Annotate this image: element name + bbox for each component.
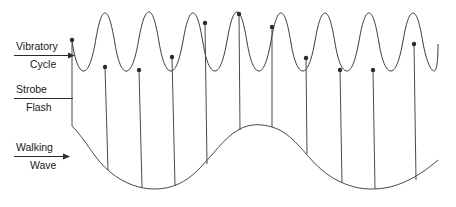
strobe-line-3 xyxy=(139,70,142,188)
strobe-line-4 xyxy=(172,57,175,186)
sample-dot-5 xyxy=(203,21,207,25)
sample-dot-9 xyxy=(338,68,342,72)
label-vibratory-line2: Cycle xyxy=(30,58,56,70)
label-strobe-line1: Strobe xyxy=(16,83,47,95)
sample-dot-2 xyxy=(103,65,107,69)
sample-dot-7 xyxy=(270,25,274,29)
strobe-line-6 xyxy=(239,14,240,130)
strobe-line-11 xyxy=(414,44,416,180)
sample-dot-6 xyxy=(237,12,241,16)
diagram-root: Vibratory Cycle Strobe Flash Walking Wav… xyxy=(0,0,456,207)
sample-dot-11 xyxy=(412,42,416,46)
label-vibratory-line1: Vibratory xyxy=(16,40,59,52)
label-walking-line1: Walking xyxy=(16,141,53,153)
strobe-walking-wave-figure: Vibratory Cycle Strobe Flash Walking Wav… xyxy=(0,0,456,207)
sample-dot-4 xyxy=(170,55,174,59)
strobe-line-10 xyxy=(373,70,375,189)
label-strobe-flash: Strobe Flash xyxy=(14,83,73,113)
sample-dot-8 xyxy=(304,56,308,60)
label-vibratory-cycle: Vibratory Cycle xyxy=(14,40,75,70)
strobe-sample-dots xyxy=(70,12,416,72)
strobe-line-9 xyxy=(340,70,342,183)
sample-dot-1 xyxy=(70,38,74,42)
label-strobe-line2: Flash xyxy=(26,101,52,113)
walking-wave-curve xyxy=(72,125,438,189)
strobe-line-8 xyxy=(306,58,307,154)
label-walking-wave: Walking Wave xyxy=(14,141,70,171)
vibratory-cycle-curve xyxy=(72,12,438,71)
strobe-line-2 xyxy=(105,67,108,170)
label-walking-line2: Wave xyxy=(30,159,57,171)
strobe-line-5 xyxy=(205,23,207,164)
sample-dot-3 xyxy=(137,68,141,72)
label-walking-arrow-icon xyxy=(63,154,70,160)
strobe-flash-lines xyxy=(72,14,416,189)
sample-dot-10 xyxy=(371,68,375,72)
